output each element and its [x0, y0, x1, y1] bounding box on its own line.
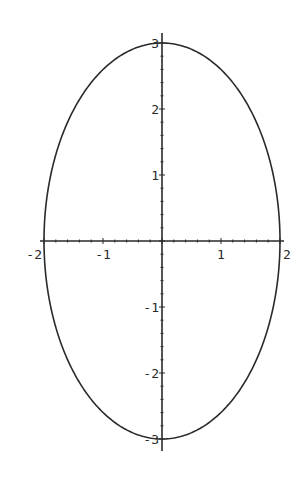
x-tick-label: -2: [26, 247, 42, 262]
x-tick-label: 2: [283, 247, 291, 262]
y-tick-label: -1: [143, 300, 159, 315]
y-tick-label: -3: [143, 432, 159, 447]
x-tick-label: 1: [217, 247, 225, 262]
y-tick-label: -2: [143, 366, 159, 381]
axes: [40, 33, 284, 451]
x-tick-label: -1: [95, 247, 111, 262]
y-tick-label: 3: [151, 36, 159, 51]
y-tick-label: 2: [151, 102, 159, 117]
y-tick-label: 1: [151, 168, 159, 183]
ellipse-plot: -2-112-3-2-1123: [0, 0, 307, 481]
